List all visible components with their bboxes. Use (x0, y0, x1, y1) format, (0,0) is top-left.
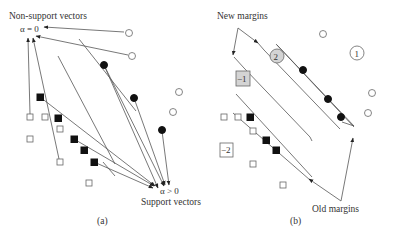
filled-square-point (263, 137, 270, 144)
filled-circle-point (159, 127, 166, 134)
filled-square-point (37, 94, 44, 101)
open-circle-point (170, 109, 177, 116)
open-square-point (27, 136, 33, 142)
open-square-point (42, 114, 48, 120)
arrow-to-alpha-zero (44, 27, 124, 32)
open-square-point (250, 128, 256, 134)
arrow-to-old-margin (341, 138, 353, 201)
panel-b-caption: (b) (290, 216, 301, 227)
square-label-neg2: −2 (221, 145, 231, 155)
arrow-to-new-margin (238, 28, 258, 43)
filled-square-point (71, 136, 78, 143)
open-circle-point (176, 89, 183, 96)
circle-label-1: 1 (355, 49, 360, 59)
open-circle-point (369, 90, 376, 97)
arrow-to-alpha-zero (28, 38, 30, 114)
open-square-point (57, 159, 63, 165)
non-support-vectors-label: Non-support vectors (9, 11, 87, 21)
hyperplane-line (79, 39, 136, 111)
open-square-point (57, 126, 63, 132)
filled-circle-point (338, 114, 345, 121)
filled-square-point (91, 159, 98, 166)
arrow-to-old-margin (309, 179, 341, 201)
filled-circle-point (131, 95, 138, 102)
open-square-point (280, 182, 286, 188)
filled-square-point (81, 147, 88, 154)
open-circle-point (320, 31, 327, 38)
alpha-positive-label: α > 0 (160, 186, 179, 196)
filled-square-point (273, 147, 280, 154)
arrow-to-alpha-positive (162, 131, 169, 185)
open-square-point (235, 114, 241, 120)
open-circle-point (126, 30, 133, 37)
arrow-to-new-margin (233, 28, 238, 55)
panel-a-caption: (a) (97, 216, 108, 227)
old-margin-lower (233, 113, 310, 180)
circle-label-2: 2 (274, 52, 279, 62)
arrow-to-alpha-positive (94, 162, 153, 188)
arrow-to-alpha-positive (134, 98, 165, 185)
new-margins-label: New margins (217, 11, 268, 21)
square-label-neg1: −1 (237, 74, 247, 84)
filled-square-point (55, 115, 62, 122)
filled-circle-point (101, 62, 108, 69)
arrow-to-alpha-positive (104, 65, 164, 186)
arrow-to-alpha-positive (74, 139, 154, 186)
open-square-point (221, 114, 227, 120)
svm-diagram: Non-support vectors α = 0 (0, 0, 393, 241)
open-circle-point (365, 110, 372, 117)
panel-b: New margins 2 1 −1 (217, 11, 376, 227)
alpha-zero-label: α = 0 (20, 24, 39, 34)
open-square-point (250, 161, 256, 167)
margin-line-tail (103, 162, 115, 176)
open-circle-point (129, 53, 136, 60)
support-vectors-label: Support vectors (141, 197, 201, 207)
filled-square-point (247, 114, 254, 121)
hyperplane-line (236, 94, 312, 177)
open-square-point (86, 180, 92, 186)
arrow-to-alpha-zero (36, 36, 128, 55)
open-square-point (27, 114, 33, 120)
panel-a: Non-support vectors α = 0 (9, 11, 201, 227)
old-margins-label: Old margins (312, 204, 359, 214)
filled-circle-point (325, 96, 332, 103)
filled-circle-point (300, 67, 307, 74)
